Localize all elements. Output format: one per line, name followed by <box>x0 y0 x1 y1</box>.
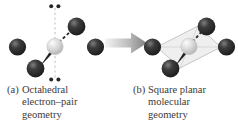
caption-b-tag: (b) <box>133 84 148 96</box>
terminal-atom-left <box>144 38 161 55</box>
lone-pair-top <box>49 4 60 8</box>
panel-octahedral-structure <box>0 0 112 86</box>
terminal-atom-left <box>9 38 26 55</box>
central-atom <box>47 38 63 54</box>
vsepr-geometry-figure: (a) Octahedral electron–pair geometry (b… <box>0 0 238 131</box>
terminal-atom-lower-left <box>162 60 180 78</box>
caption-a-line-1: Octahedral <box>22 84 77 96</box>
diagram-panels <box>0 0 238 86</box>
caption-square-planar: (b) Square planar molecular geometry <box>133 84 237 121</box>
caption-b-line-2: molecular <box>148 96 206 108</box>
terminal-atom-right <box>87 38 104 55</box>
caption-b-text: Square planar molecular geometry <box>148 84 206 121</box>
caption-a-text: Octahedral electron–pair geometry <box>22 84 77 121</box>
figure-captions: (a) Octahedral electron–pair geometry (b… <box>0 84 238 131</box>
caption-b-line-3: geometry <box>148 109 206 121</box>
panel-square-planar-structure <box>140 0 238 86</box>
terminal-atom-right <box>218 38 235 55</box>
caption-a-line-2: electron–pair <box>22 96 77 108</box>
caption-octahedral: (a) Octahedral electron–pair geometry <box>7 84 115 121</box>
central-atom <box>181 38 197 54</box>
caption-a-line-3: geometry <box>22 109 77 121</box>
caption-a-tag: (a) <box>7 84 22 96</box>
terminal-atom-upper-right <box>68 18 86 36</box>
terminal-atom-lower-left <box>27 60 45 78</box>
caption-b-line-1: Square planar <box>148 84 206 96</box>
terminal-atom-upper-right <box>198 18 216 36</box>
lone-pair-bottom <box>49 78 60 82</box>
